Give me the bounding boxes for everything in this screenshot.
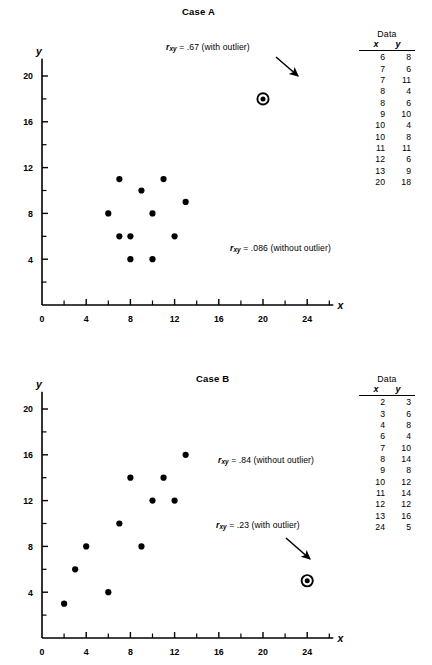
cell-x: 6 xyxy=(363,431,385,442)
table-row: 108 xyxy=(348,132,426,143)
data-point xyxy=(105,210,111,216)
cell-x: 10 xyxy=(363,477,385,488)
cell-y: 8 xyxy=(385,132,411,143)
r-subscript: xy xyxy=(219,523,226,530)
data-point xyxy=(105,589,111,595)
x-tick-label: 8 xyxy=(128,314,133,324)
annotation-arrow xyxy=(286,538,310,559)
cell-y: 10 xyxy=(385,109,411,120)
cell-y: 14 xyxy=(385,488,411,499)
x-tick-label: 4 xyxy=(84,647,89,657)
column-header-y: y xyxy=(396,40,401,49)
cell-x: 13 xyxy=(363,166,385,177)
cell-x: 24 xyxy=(363,522,385,533)
outlier-marker xyxy=(302,575,313,586)
y-tick-label: 4 xyxy=(28,588,33,598)
data-point xyxy=(160,475,166,481)
data-point xyxy=(149,210,155,216)
annotation-arrow xyxy=(276,57,298,76)
r-subscript: xy xyxy=(221,458,228,465)
table-row: 1111 xyxy=(348,143,426,154)
data-table-caption: Data xyxy=(348,30,426,39)
table-row: 48 xyxy=(348,420,426,431)
cell-y: 11 xyxy=(385,143,411,154)
data-table-caption: Data xyxy=(348,375,426,384)
table-row: 76 xyxy=(348,64,426,75)
cell-x: 20 xyxy=(363,177,385,188)
cell-x: 10 xyxy=(363,120,385,131)
table-row: 710 xyxy=(348,443,426,454)
x-axis-label: x xyxy=(336,632,344,644)
cell-y: 6 xyxy=(385,98,411,109)
cell-y: 9 xyxy=(385,166,411,177)
data-point xyxy=(183,452,189,458)
x-tick-label: 4 xyxy=(84,314,89,324)
data-table-header: x y xyxy=(348,40,426,50)
table-row: 64 xyxy=(348,431,426,442)
cell-y: 18 xyxy=(385,177,411,188)
cell-y: 8 xyxy=(385,52,411,63)
case-b-data-table: Data x y 2336486471081498101211141212131… xyxy=(348,375,426,533)
cell-y: 6 xyxy=(385,409,411,420)
data-point xyxy=(83,543,89,549)
data-point xyxy=(116,520,122,526)
table-row: 36 xyxy=(348,409,426,420)
data-point xyxy=(149,256,155,262)
x-tick-label: 0 xyxy=(40,314,45,324)
data-table-header: x y xyxy=(348,385,426,395)
cell-y: 12 xyxy=(385,477,411,488)
r-value-text: = .23 (with outlier) xyxy=(227,520,300,530)
x-tick-label: 12 xyxy=(170,314,180,324)
cell-x: 8 xyxy=(363,98,385,109)
table-row: 98 xyxy=(348,465,426,476)
cell-x: 2 xyxy=(363,397,385,408)
data-point xyxy=(72,566,78,572)
y-tick-label: 16 xyxy=(23,117,33,127)
table-row: 126 xyxy=(348,154,426,165)
r-without-outlier: rxy = .086 (without outlier) xyxy=(230,243,331,253)
cell-x: 7 xyxy=(363,443,385,454)
x-tick-label: 0 xyxy=(40,647,45,657)
cell-x: 6 xyxy=(363,52,385,63)
cell-x: 9 xyxy=(363,109,385,120)
cell-y: 10 xyxy=(385,443,411,454)
column-header-y: y xyxy=(396,385,401,394)
x-tick-label: 12 xyxy=(170,647,180,657)
header-rule xyxy=(359,395,415,396)
table-row: 1012 xyxy=(348,477,426,488)
cell-x: 9 xyxy=(363,465,385,476)
table-row: 1114 xyxy=(348,488,426,499)
r-subscript: xy xyxy=(169,45,176,52)
cell-x: 12 xyxy=(363,499,385,510)
table-row: 1316 xyxy=(348,511,426,522)
data-point xyxy=(172,498,178,504)
y-tick-label: 16 xyxy=(23,450,33,460)
y-tick-label: 20 xyxy=(23,71,33,81)
table-row: 104 xyxy=(348,120,426,131)
correlation-outlier-figure: Case A 4812162004812162024yx Data x y 68… xyxy=(0,0,432,665)
r-without-outlier: rxy = .84 (without outlier) xyxy=(218,455,314,465)
data-point xyxy=(149,498,155,504)
table-row: 245 xyxy=(348,522,426,533)
table-row: 1212 xyxy=(348,499,426,510)
r-value-text: = .67 (with outlier) xyxy=(177,42,250,52)
y-tick-label: 12 xyxy=(23,496,33,506)
data-point xyxy=(138,543,144,549)
cell-x: 10 xyxy=(363,132,385,143)
x-tick-label: 20 xyxy=(258,314,268,324)
column-header-x: x xyxy=(373,385,378,394)
cell-x: 11 xyxy=(363,143,385,154)
cell-y: 6 xyxy=(385,64,411,75)
cell-y: 8 xyxy=(385,465,411,476)
header-rule xyxy=(359,50,415,51)
data-point xyxy=(160,176,166,182)
cell-y: 4 xyxy=(385,431,411,442)
data-point xyxy=(138,187,144,193)
data-point xyxy=(172,233,178,239)
data-table-rows: 6876711848691010410811111261392018 xyxy=(348,52,426,188)
table-row: 2018 xyxy=(348,177,426,188)
data-table-rows: 23364864710814981012111412121316245 xyxy=(348,397,426,533)
r-value-text: = .84 (without outlier) xyxy=(229,455,314,465)
r-with-outlier: rxy = .67 (with outlier) xyxy=(166,42,250,52)
cell-x: 11 xyxy=(363,488,385,499)
